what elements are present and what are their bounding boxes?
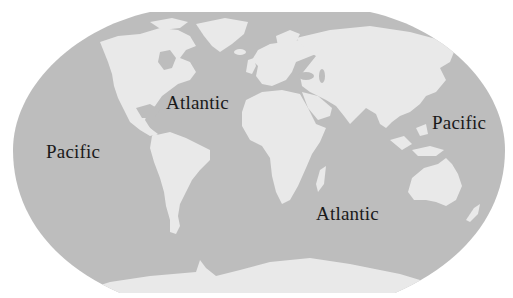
landmass-iceland (234, 49, 246, 55)
ocean-label-atlantic-south: Atlantic (316, 204, 379, 223)
ocean-label-pacific-west: Pacific (46, 142, 100, 161)
world-map: Pacific Atlantic Atlantic Pacific (0, 0, 513, 298)
water-black-sea (298, 72, 314, 80)
ocean-label-pacific-east: Pacific (432, 113, 486, 132)
ocean-label-atlantic-north: Atlantic (166, 93, 229, 112)
water-caspian-sea (319, 69, 325, 83)
